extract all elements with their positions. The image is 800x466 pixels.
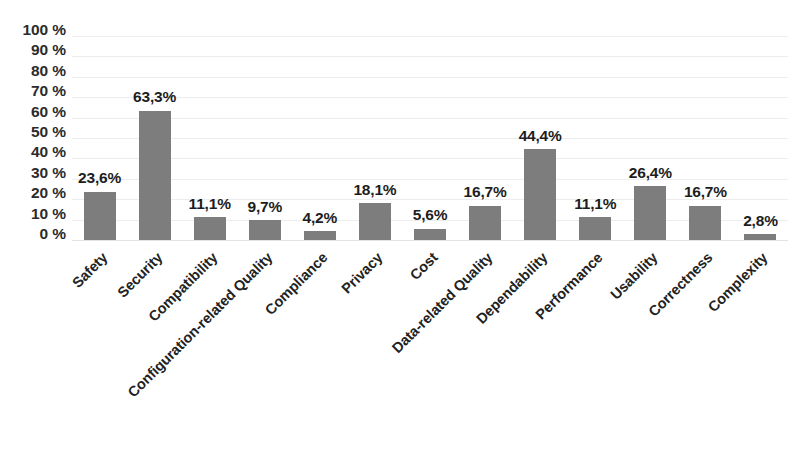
bar[interactable] bbox=[579, 217, 611, 240]
bar-value-label: 11,1% bbox=[574, 196, 616, 212]
y-axis-tick-label: 0 % bbox=[8, 226, 66, 242]
bar-value-label: 18,1% bbox=[353, 182, 396, 198]
bar[interactable] bbox=[249, 220, 281, 240]
y-axis-tick-label: 80 % bbox=[8, 63, 66, 79]
bar-group: 11,1% bbox=[568, 36, 623, 240]
y-axis: 0 %10 %20 %30 %40 %50 %60 %70 %80 %90 %1… bbox=[8, 30, 66, 242]
bar[interactable] bbox=[689, 206, 721, 240]
bar-value-label: 9,7% bbox=[247, 199, 282, 215]
x-axis-tick-label: Compatibility bbox=[0, 250, 220, 466]
bar-chart: 0 %10 %20 %30 %40 %50 %60 %70 %80 %90 %1… bbox=[0, 0, 800, 466]
y-axis-tick-label: 20 % bbox=[8, 185, 66, 201]
bar[interactable] bbox=[139, 111, 171, 240]
y-axis-tick-label: 10 % bbox=[8, 206, 66, 222]
y-axis-tick-label: 40 % bbox=[8, 145, 66, 161]
bar-value-label: 2,8% bbox=[743, 213, 778, 229]
bar[interactable] bbox=[634, 186, 666, 240]
axis-baseline bbox=[72, 240, 788, 241]
bar-group: 4,2% bbox=[292, 36, 347, 240]
y-axis-tick-label: 90 % bbox=[8, 43, 66, 59]
y-axis-tick-label: 60 % bbox=[8, 104, 66, 120]
bar-value-label: 4,2% bbox=[303, 210, 338, 226]
bar-group: 26,4% bbox=[623, 36, 678, 240]
bars-layer: 23,6%63,3%11,1%9,7%4,2%18,1%5,6%16,7%44,… bbox=[72, 36, 788, 240]
bar[interactable] bbox=[414, 229, 446, 240]
y-axis-tick-label: 50 % bbox=[8, 124, 66, 140]
y-axis-tick-label: 100 % bbox=[8, 22, 66, 38]
bar-value-label: 16,7% bbox=[464, 184, 507, 200]
bar[interactable] bbox=[359, 203, 391, 240]
bar[interactable] bbox=[194, 217, 226, 240]
bar-value-label: 26,4% bbox=[629, 165, 672, 181]
bar-value-label: 5,6% bbox=[413, 207, 448, 223]
bar[interactable] bbox=[469, 206, 501, 240]
bar-group: 63,3% bbox=[127, 36, 182, 240]
bar-group: 5,6% bbox=[402, 36, 457, 240]
bar[interactable] bbox=[84, 192, 116, 240]
bar-group: 16,7% bbox=[678, 36, 733, 240]
bar[interactable] bbox=[304, 231, 336, 240]
bar-group: 18,1% bbox=[347, 36, 402, 240]
y-axis-tick-label: 30 % bbox=[8, 165, 66, 181]
bar-group: 11,1% bbox=[182, 36, 237, 240]
y-axis-tick-label: 70 % bbox=[8, 83, 66, 99]
bar-value-label: 23,6% bbox=[78, 170, 121, 186]
bar-value-label: 16,7% bbox=[684, 184, 727, 200]
bar-group: 9,7% bbox=[237, 36, 292, 240]
bar-value-label: 11,1% bbox=[189, 196, 231, 212]
bar[interactable] bbox=[524, 149, 556, 240]
x-axis: SafetySecurityCompatibilityConfiguration… bbox=[72, 244, 788, 454]
bar-group: 16,7% bbox=[458, 36, 513, 240]
bar[interactable] bbox=[744, 234, 776, 240]
bar-group: 2,8% bbox=[733, 36, 788, 240]
bar-group: 44,4% bbox=[513, 36, 568, 240]
bar-value-label: 63,3% bbox=[133, 89, 176, 105]
bar-value-label: 44,4% bbox=[519, 128, 562, 144]
bar-group: 23,6% bbox=[72, 36, 127, 240]
